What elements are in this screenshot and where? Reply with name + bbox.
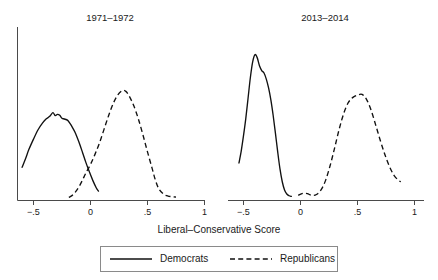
panel-2-tick-label-1: 0: [298, 207, 303, 217]
panel-2013-2014: 2013–2014 −.5 0 .5 1: [228, 12, 424, 217]
legend-label-republicans: Republicans: [280, 253, 335, 264]
panel-2-title: 2013–2014: [301, 12, 349, 23]
panel-1-tick-label-1: 0: [88, 207, 93, 217]
panel-1-democrats-curve: [22, 113, 98, 191]
panel-1-tick-label-3: 1: [202, 207, 207, 217]
panel-2-tick-label-3: 1: [412, 207, 417, 217]
chart-canvas: 1971–1972 −.5 0 .5 1 2013–2014 −.5 0 .: [0, 0, 438, 280]
legend-label-democrats: Democrats: [160, 253, 208, 264]
panel-1-republicans-curve: [69, 90, 176, 197]
panel-1-title: 1971–1972: [86, 12, 134, 23]
panel-2-democrats-curve: [239, 55, 291, 197]
panel-2-republicans-curve: [298, 94, 401, 195]
panel-1-tick-label-0: −.5: [27, 207, 40, 217]
panel-1-tick-label-2: .5: [144, 207, 152, 217]
x-axis-title: Liberal–Conservative Score: [158, 224, 281, 235]
density-plot-figure: 1971–1972 −.5 0 .5 1 2013–2014 −.5 0 .: [0, 0, 438, 280]
legend: Democrats Republicans: [101, 247, 338, 272]
panel-2-tick-label-2: .5: [354, 207, 362, 217]
panel-2-tick-label-0: −.5: [237, 207, 250, 217]
panel-1971-1972: 1971–1972 −.5 0 .5 1: [18, 12, 208, 217]
